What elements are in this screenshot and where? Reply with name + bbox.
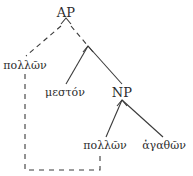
edge-np-to-agathon [122,100,163,137]
node-label-ap: AP [57,6,76,19]
edge-np-to-pollon-lower [106,100,122,137]
syntax-tree-diagram: AP πολλῶν μεστόν NP πολλῶν ἀγαθῶν [0,0,193,176]
edge-ap-to-pollon-left [26,26,61,56]
node-label-pollon-left: πολλῶν [3,60,46,71]
node-label-np: NP [112,86,133,99]
node-label-pollon-lower: πολλῶν [83,140,126,151]
edge-apex-to-meston [66,46,88,84]
node-label-meston: μεστόν [45,87,85,98]
edge-ap-to-apex [71,26,88,46]
node-label-agathon: ἀγαθῶν [142,140,186,151]
